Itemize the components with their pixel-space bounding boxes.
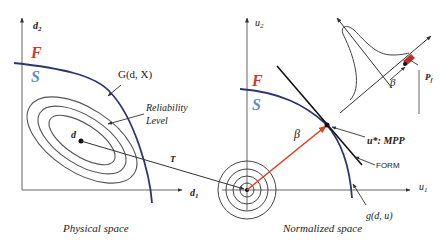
inset-beta-label: β xyxy=(389,76,396,88)
inset-mpp-point xyxy=(403,62,407,66)
limit-state-label-G: G(d, X) xyxy=(118,68,153,81)
reliability-diagram: d2 d1 F S G(d, X) Reliability Level d T … xyxy=(0,0,445,251)
inset-beta-axis xyxy=(340,36,431,113)
form-label: FORM xyxy=(376,161,400,170)
physical-space-panel: d2 d1 F S G(d, X) Reliability Level d T … xyxy=(13,18,244,234)
pf-pointer xyxy=(410,60,418,65)
failure-region-label-normalized: F xyxy=(251,72,263,89)
physical-space-caption: Physical space xyxy=(62,222,129,234)
d2-axis-label: d2 xyxy=(33,20,42,33)
failure-region-label: F xyxy=(30,44,42,61)
limit-state-label-g: g(d, u) xyxy=(366,210,393,222)
transformation-label: T xyxy=(170,154,176,164)
limit-state-pointer-g xyxy=(353,184,366,205)
safe-region-label: S xyxy=(31,68,40,85)
d1-axis-label: d1 xyxy=(190,187,199,200)
beta-vector xyxy=(247,126,326,190)
safe-region-label-normalized: S xyxy=(252,96,261,113)
reliability-level-label-1: Reliability xyxy=(145,102,188,113)
form-tangent-line xyxy=(277,66,362,165)
mpp-label: u*: MPP xyxy=(367,135,405,146)
pdf-inset: β Pf xyxy=(337,18,434,114)
reliability-level-label-2: Level xyxy=(145,115,168,126)
limit-state-pointer xyxy=(108,85,121,96)
pf-label: Pf xyxy=(425,72,434,83)
mpp-point xyxy=(325,123,330,128)
inset-pdf-axis xyxy=(337,18,392,88)
u1-axis-label: u1 xyxy=(419,181,428,194)
design-point-label: d xyxy=(71,129,77,140)
beta-label: β xyxy=(293,127,300,141)
u2-axis-label: u2 xyxy=(255,17,264,30)
normalized-space-caption: Normalized space xyxy=(282,222,362,234)
normalized-space-panel: u2 u1 F S β u*: MPP FORM g(d, u) Normali… xyxy=(218,17,428,234)
